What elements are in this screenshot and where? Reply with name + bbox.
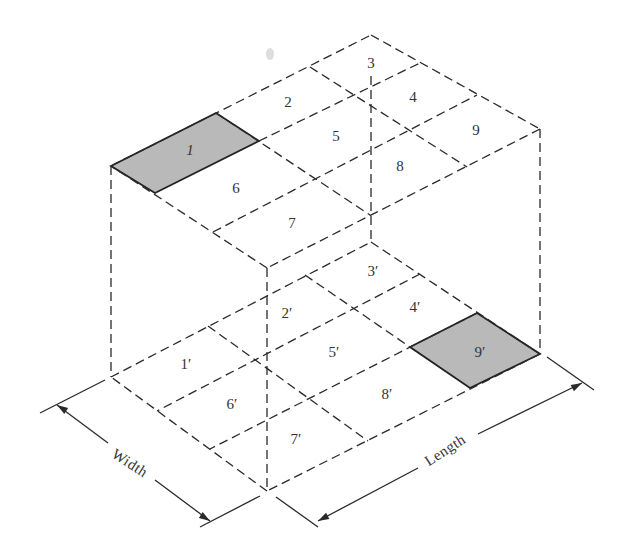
arrowhead-icon <box>316 513 329 524</box>
cell-label: 3′ <box>368 263 379 279</box>
extension-line <box>547 357 594 390</box>
top-face-edge <box>371 35 540 129</box>
cell-label: 9′ <box>475 344 486 360</box>
cell-label: 4 <box>409 89 417 105</box>
cell-label: 8′ <box>382 386 393 402</box>
cell-label: 1′ <box>181 356 192 372</box>
cell-label: 7′ <box>291 431 302 447</box>
cell-label: 8 <box>396 158 404 174</box>
bottom-face-grid-line <box>208 326 368 441</box>
cell-label: 2 <box>284 94 292 110</box>
cell-label: 3 <box>367 55 375 71</box>
top-face-grid <box>213 63 477 232</box>
length-label: Length <box>422 431 469 469</box>
dimension-line <box>478 383 582 434</box>
width-label: Width <box>109 446 151 481</box>
cell-label: 1 <box>186 142 194 158</box>
length-dimension: Length <box>276 357 594 527</box>
cell-label: 6 <box>232 180 240 196</box>
cell-label: 6′ <box>227 396 238 412</box>
cell-label: 5′ <box>329 344 340 360</box>
top-face-grid-line <box>213 95 477 232</box>
bottom-face-grid-line <box>210 313 477 449</box>
dimension-line <box>318 468 418 521</box>
cell-label: 9 <box>472 122 480 138</box>
bottom-face-grid-line <box>305 275 410 347</box>
extension-line <box>276 497 318 527</box>
cell-label: 7 <box>288 215 296 231</box>
smudge-mark <box>266 48 274 60</box>
bottom-face-grid <box>157 274 477 449</box>
bottom-face-grid-line <box>157 274 420 411</box>
cell-label: 2′ <box>282 305 293 321</box>
cell-label: 5 <box>332 128 340 144</box>
cell-label: 4′ <box>410 299 421 315</box>
extension-line <box>40 380 105 413</box>
top-face-grid-line <box>310 67 467 167</box>
isometric-box-diagram: 123456789 1′2′3′4′5′6′7′8′9′ Width Lengt… <box>0 0 624 550</box>
extension-line <box>200 496 260 527</box>
top-face-edge <box>111 166 267 268</box>
top-face-edge <box>267 129 540 268</box>
bottom-face-edge <box>267 354 540 491</box>
